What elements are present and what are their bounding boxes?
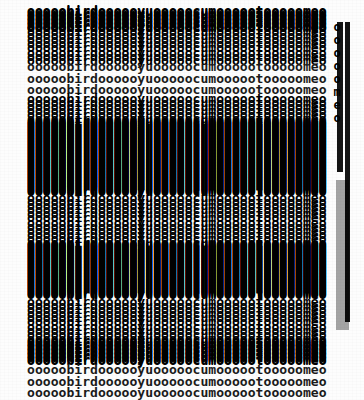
text-band-bottom-dense: ooooobirdoooooyuooooocumoooootooooomeo o… [27, 340, 327, 362]
ink-smudge-right-lower [336, 180, 349, 330]
ink-smudge-right-upper [337, 22, 343, 172]
repeated-line-group: ooooobirdoooooyuooooocumoooootooooomeo o… [27, 236, 327, 302]
text-band-bottom-legible: ooooobirdoooooyuooooocumoooootooooomeo o… [27, 364, 327, 399]
text-band-middle-dense: ooooobirdoooooyuooooocumoooootooooomeo o… [27, 120, 327, 192]
repeated-line-group: ooooobirdoooooyuooooocumoooootooooomeo o… [27, 362, 327, 400]
text-band-top-mid: ooooobirdoooooyuooooocumoooootooooomeo o… [27, 26, 327, 63]
scanned-page: ooooobirdoooooyuooooocumoooootooooomeo o… [0, 0, 364, 400]
text-band-lower-dense: ooooobirdoooooyuooooocumoooootooooomeo o… [27, 243, 327, 295]
repeated-line-group: ooooobirdoooooyuooooocumoooootooooomeo o… [27, 113, 327, 199]
